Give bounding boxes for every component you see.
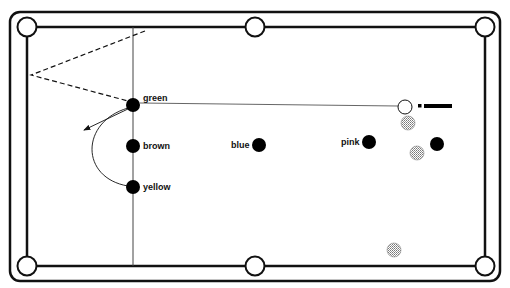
snooker-diagram: green brown yellow blue pink: [0, 0, 510, 288]
label-pink: pink: [341, 137, 360, 147]
cue-ball-path: [140, 103, 398, 106]
ball-green: [126, 98, 140, 112]
pocket-top-middle: [246, 18, 265, 37]
ball-blue: [252, 138, 266, 152]
ball-red-2: [410, 146, 424, 160]
curve-path-arc: [92, 108, 128, 186]
dashed-cushion-path: [31, 31, 145, 101]
cue-stick: [418, 104, 452, 108]
cue-tip: [418, 104, 422, 108]
cue-ball: [398, 100, 412, 114]
ball-brown: [126, 139, 140, 153]
shot-paths: [31, 31, 398, 186]
ball-red-1: [401, 116, 415, 130]
cue-shaft: [424, 104, 452, 108]
pocket-bottom-middle: [246, 257, 265, 276]
label-brown: brown: [143, 141, 170, 151]
ball-red-3: [387, 243, 401, 257]
ball-yellow: [126, 180, 140, 194]
ball-black: [430, 137, 444, 151]
label-green: green: [143, 93, 168, 103]
balls: green brown yellow blue pink: [126, 93, 444, 257]
pocket-bottom-left: [18, 257, 37, 276]
ball-pink: [362, 135, 376, 149]
label-blue: blue: [231, 140, 250, 150]
pocket-top-right: [476, 18, 495, 37]
pocket-bottom-right: [476, 257, 495, 276]
label-yellow: yellow: [143, 182, 172, 192]
pocket-top-left: [18, 18, 37, 37]
